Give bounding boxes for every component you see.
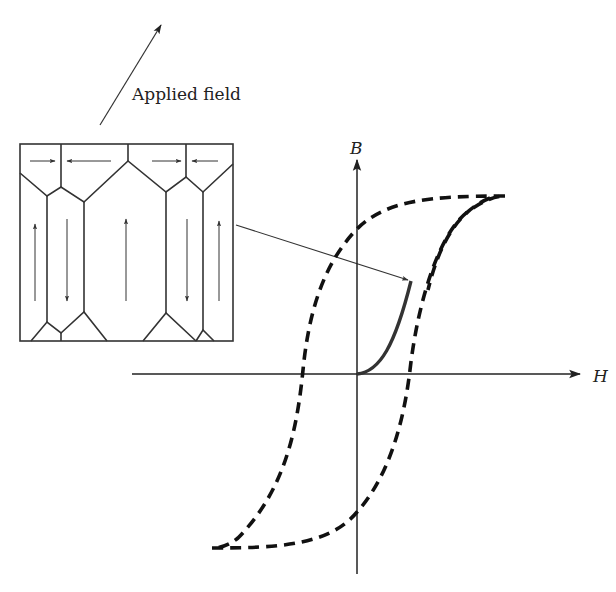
pointer-arrow	[236, 225, 408, 280]
hysteresis-loop	[212, 196, 505, 548]
b-axis-label: B	[349, 138, 363, 158]
applied-field-arrow	[100, 25, 161, 125]
hysteresis-diagram: Applied field B H	[0, 0, 616, 592]
applied-field-label: Applied field	[131, 84, 241, 104]
initial-magnetization-curve	[357, 281, 411, 374]
h-axis-label: H	[592, 366, 609, 386]
